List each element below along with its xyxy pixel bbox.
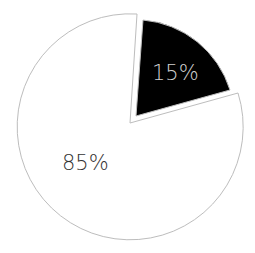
- pie-chart: 15% 85%: [0, 0, 255, 253]
- slice-label-85: 85%: [62, 151, 109, 175]
- pie-slice-85: [17, 14, 243, 240]
- slice-label-15: 15%: [152, 61, 199, 85]
